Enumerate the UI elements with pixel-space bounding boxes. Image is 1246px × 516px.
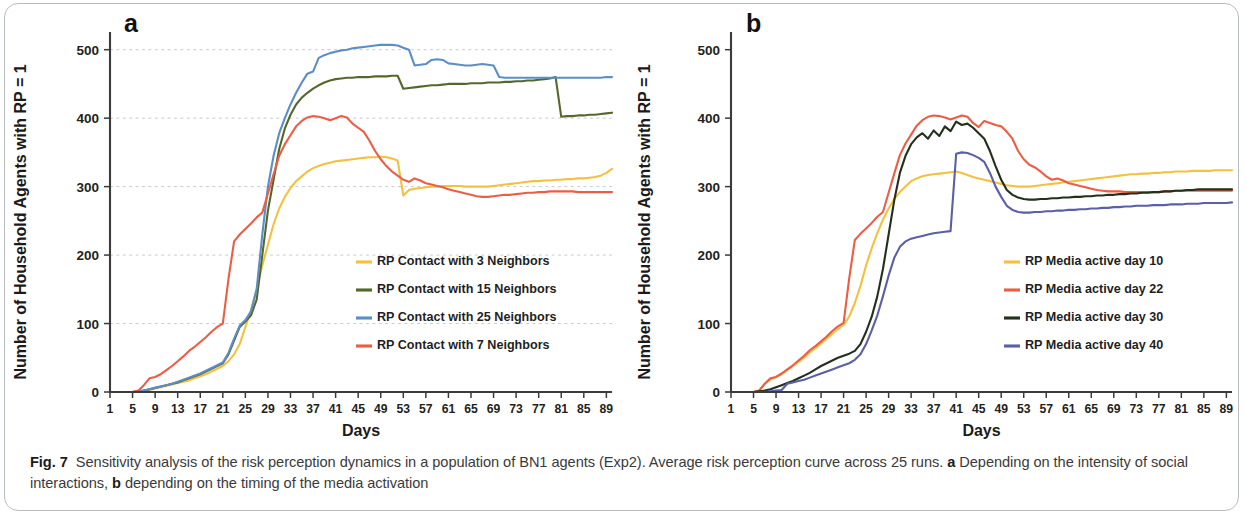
- x-tick-label: 25: [239, 402, 253, 416]
- x-tick-label: 61: [1062, 402, 1076, 416]
- y-tick-label: 500: [697, 43, 720, 58]
- x-tick-label: 73: [509, 402, 523, 416]
- x-tick-label: 41: [329, 402, 343, 416]
- x-axis-title: Days: [962, 422, 1000, 439]
- x-tick-label: 41: [949, 402, 963, 416]
- panel-letter: a: [124, 9, 139, 37]
- x-tick-label: 17: [193, 402, 207, 416]
- figure-caption: Fig. 7 Sensitivity analysis of the risk …: [30, 452, 1220, 493]
- x-tick-label: 65: [464, 402, 478, 416]
- y-tick-label: 500: [76, 43, 99, 58]
- legend-label-0: RP Contact with 3 Neighbors: [377, 254, 550, 268]
- x-tick-label: 89: [600, 402, 614, 416]
- y-tick-label: 200: [76, 248, 99, 263]
- panel-b: 0100200300400500159131721252933374145495…: [623, 0, 1246, 440]
- y-tick-label: 300: [76, 180, 99, 195]
- x-tick-label: 5: [750, 402, 757, 416]
- x-tick-label: 21: [837, 402, 851, 416]
- x-tick-label: 25: [859, 402, 873, 416]
- y-tick-label: 400: [697, 111, 720, 126]
- legend-label-1: RP Media active day 22: [1025, 282, 1163, 296]
- x-tick-label: 45: [351, 402, 365, 416]
- caption-marker-b: b: [112, 475, 121, 491]
- chart-panel-a: 0100200300400500159131721252933374145495…: [0, 0, 623, 440]
- x-tick-label: 85: [1197, 402, 1211, 416]
- x-tick-label: 89: [1220, 402, 1234, 416]
- x-tick-label: 49: [374, 402, 388, 416]
- x-tick-label: 29: [882, 402, 896, 416]
- x-tick-label: 21: [216, 402, 230, 416]
- caption-sentence-3: depending on the timing of the media act…: [121, 475, 429, 491]
- x-tick-label: 69: [487, 402, 501, 416]
- x-tick-label: 29: [261, 402, 275, 416]
- x-tick-label: 57: [1039, 402, 1053, 416]
- x-tick-label: 85: [577, 402, 591, 416]
- x-tick-label: 5: [129, 402, 136, 416]
- panel-a: 0100200300400500159131721252933374145495…: [0, 0, 623, 440]
- x-tick-label: 37: [927, 402, 941, 416]
- x-tick-label: 77: [1152, 402, 1166, 416]
- y-tick-label: 400: [76, 111, 99, 126]
- caption-spacer: [68, 454, 76, 470]
- x-tick-label: 13: [792, 402, 806, 416]
- x-tick-label: 81: [1175, 402, 1189, 416]
- series-line-0: [731, 170, 1232, 392]
- y-tick-label: 300: [697, 180, 720, 195]
- y-tick-label: 0: [91, 385, 99, 400]
- x-tick-label: 1: [107, 402, 114, 416]
- legend-label-2: RP Contact with 25 Neighbors: [377, 310, 557, 324]
- chart-panel-b: 0100200300400500159131721252933374145495…: [623, 0, 1246, 440]
- x-tick-label: 61: [442, 402, 456, 416]
- y-tick-label: 200: [697, 248, 720, 263]
- caption-sentence-1: Sensitivity analysis of the risk percept…: [76, 454, 947, 470]
- x-tick-label: 65: [1084, 402, 1098, 416]
- x-tick-label: 45: [972, 402, 986, 416]
- x-tick-label: 49: [994, 402, 1008, 416]
- x-tick-label: 73: [1130, 402, 1144, 416]
- x-tick-label: 33: [284, 402, 298, 416]
- y-tick-label: 0: [712, 385, 720, 400]
- y-tick-label: 100: [76, 317, 99, 332]
- x-tick-label: 1: [728, 402, 735, 416]
- x-tick-label: 69: [1107, 402, 1121, 416]
- y-axis-title: Number of Household Agents with RP = 1: [12, 64, 29, 379]
- x-tick-label: 81: [554, 402, 568, 416]
- caption-figure-number: Fig. 7: [30, 454, 68, 470]
- legend-label-2: RP Media active day 30: [1025, 310, 1163, 324]
- legend-label-3: RP Media active day 40: [1025, 338, 1163, 352]
- x-tick-label: 53: [397, 402, 411, 416]
- x-tick-label: 33: [904, 402, 918, 416]
- y-axis-title: Number of Household Agents with RP = 1: [636, 64, 653, 379]
- x-tick-label: 37: [306, 402, 320, 416]
- figure-panels: 0100200300400500159131721252933374145495…: [0, 0, 1246, 440]
- legend-label-3: RP Contact with 7 Neighbors: [377, 338, 550, 352]
- x-tick-label: 53: [1017, 402, 1031, 416]
- legend-label-0: RP Media active day 10: [1025, 254, 1163, 268]
- x-tick-label: 9: [152, 402, 159, 416]
- y-tick-label: 100: [697, 317, 720, 332]
- x-tick-label: 17: [814, 402, 828, 416]
- x-tick-label: 57: [419, 402, 433, 416]
- x-tick-label: 13: [171, 402, 185, 416]
- panel-letter: b: [746, 9, 761, 37]
- x-tick-label: 9: [773, 402, 780, 416]
- x-tick-label: 77: [532, 402, 546, 416]
- x-axis-title: Days: [342, 422, 380, 439]
- legend-label-1: RP Contact with 15 Neighbors: [377, 282, 557, 296]
